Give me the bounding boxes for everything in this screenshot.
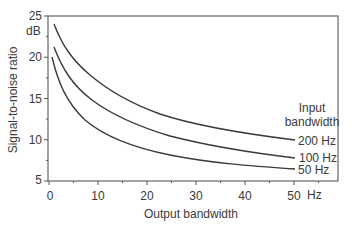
- y-tick-5: 5: [35, 173, 42, 187]
- y-axis-title: Signal-to-noise ratio: [6, 46, 20, 153]
- y-tick-10: 10: [29, 133, 43, 147]
- y-unit-label: dB: [26, 24, 41, 38]
- label-200hz: 200 Hz: [298, 134, 336, 148]
- x-tick-20: 20: [140, 189, 154, 203]
- legend-title-line1: Input: [299, 101, 326, 115]
- x-tick-40: 40: [238, 189, 252, 203]
- snr-chart: 25 20 15 10 5 dB Signal-to-noise ratio 0…: [0, 0, 352, 226]
- x-unit-label: Hz: [307, 188, 322, 202]
- curve-200hz: [54, 24, 295, 140]
- x-tick-0: 0: [47, 189, 54, 203]
- legend-title-line2: bandwidth: [285, 115, 340, 129]
- curve-100hz: [54, 47, 295, 158]
- x-tick-30: 30: [189, 189, 203, 203]
- y-tick-20: 20: [29, 50, 43, 64]
- y-tick-25: 25: [29, 9, 43, 23]
- y-tick-15: 15: [29, 92, 43, 106]
- plot-frame: [48, 16, 338, 181]
- x-axis-title: Output bandwidth: [144, 207, 238, 221]
- x-tick-50: 50: [287, 189, 301, 203]
- x-tick-10: 10: [91, 189, 105, 203]
- label-50hz: 50 Hz: [298, 163, 329, 177]
- x-axis: [49, 181, 319, 185]
